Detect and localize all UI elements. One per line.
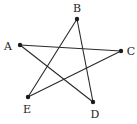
label-a: A [3,40,13,53]
segment-b-d [77,19,93,102]
labels: A B C D E [3,2,135,121]
pentagram-diagram: A B C D E [0,0,137,124]
point-e [26,95,30,99]
label-c: C [127,45,135,58]
label-d: D [91,108,100,121]
label-b: B [73,2,81,15]
segments [20,19,121,102]
point-c [119,49,123,53]
point-a [18,43,22,47]
point-b [75,17,79,21]
segment-a-d [20,45,93,102]
point-d [91,100,95,104]
segment-a-c [20,45,121,51]
label-e: E [23,103,31,116]
